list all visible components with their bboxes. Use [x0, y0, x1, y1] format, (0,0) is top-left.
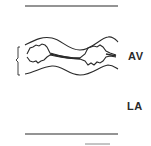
- label-left-atrium: LA: [127, 100, 143, 112]
- valve-leaflet-upper: [27, 44, 116, 58]
- lower-aortic-wall: [25, 65, 118, 75]
- left-bracket: [16, 47, 20, 75]
- echo-diagram: [0, 0, 151, 146]
- valve-leaflet-lower: [27, 55, 116, 65]
- label-aortic-valve: AV: [128, 50, 143, 62]
